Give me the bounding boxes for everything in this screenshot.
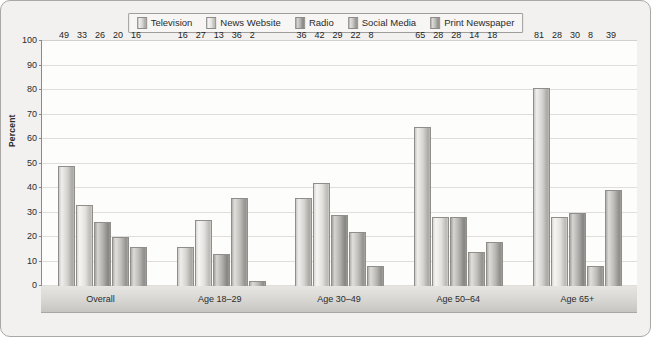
bar-slot: 39 <box>605 41 622 286</box>
bar-value-label: 36 <box>232 30 242 40</box>
y-axis-tick-mark <box>39 114 42 115</box>
legend-item-television[interactable]: Television <box>137 17 193 29</box>
bar-value-label: 29 <box>332 30 342 40</box>
y-axis-tick-label: 10 <box>27 256 37 266</box>
bar[interactable]: 28 <box>432 217 449 286</box>
bar-slot: 14 <box>468 41 485 286</box>
y-axis-tick-mark <box>39 212 42 213</box>
bar[interactable]: 27 <box>195 220 212 286</box>
bar-value-label: 2 <box>250 30 255 40</box>
y-axis-tick-label: 20 <box>27 231 37 241</box>
y-axis-tick-label: 80 <box>27 84 37 94</box>
legend-label: Social Media <box>362 18 416 28</box>
legend-swatch-icon <box>137 17 147 29</box>
y-axis-tick-label: 0 <box>32 280 37 290</box>
bar[interactable]: 28 <box>551 217 568 286</box>
bar-slot: 8 <box>367 41 384 286</box>
x-axis-category-label: Overall <box>41 286 160 312</box>
bar[interactable]: 18 <box>486 242 503 286</box>
x-axis-category-label: Age 65+ <box>518 286 637 312</box>
plot-wrapper: 1009080706050403020100 49332620161627133… <box>41 41 637 313</box>
y-axis-tick-label: 100 <box>22 35 37 45</box>
legend-label: Television <box>151 18 193 28</box>
y-axis-tick-label: 50 <box>27 158 37 168</box>
bar-value-label: 16 <box>178 30 188 40</box>
y-axis-tick-mark <box>39 40 42 41</box>
bar-slot: 16 <box>177 41 194 286</box>
bar-slot: 2 <box>249 41 266 286</box>
bar-value-label: 65 <box>415 30 425 40</box>
bar-slot: 26 <box>94 41 111 286</box>
bar[interactable]: 13 <box>213 254 230 286</box>
bar-slot: 28 <box>551 41 568 286</box>
bar[interactable]: 49 <box>58 166 75 286</box>
bar-value-label: 39 <box>606 30 616 40</box>
legend-item-social-media[interactable]: Social Media <box>348 17 416 29</box>
bar-value-label: 16 <box>131 30 141 40</box>
bar[interactable]: 42 <box>313 183 330 286</box>
legend-swatch-icon <box>206 17 216 29</box>
bar-slot: 65 <box>414 41 431 286</box>
bar-slot: 29 <box>331 41 348 286</box>
bar-slot: 30 <box>569 41 586 286</box>
bar-group: 812830839 <box>518 41 637 286</box>
legend-item-news-website[interactable]: News Website <box>206 17 281 29</box>
bar-value-label: 18 <box>487 30 497 40</box>
bar[interactable]: 36 <box>295 198 312 286</box>
bar[interactable]: 8 <box>367 266 384 286</box>
x-axis-category-label: Age 18–29 <box>160 286 279 312</box>
bar-slot: 13 <box>213 41 230 286</box>
category-axis: OverallAge 18–29Age 30–49Age 50–64Age 65… <box>41 286 637 313</box>
bar[interactable]: 28 <box>450 217 467 286</box>
bar-value-label: 27 <box>196 30 206 40</box>
bar[interactable]: 29 <box>331 215 348 286</box>
bar[interactable]: 65 <box>414 127 431 286</box>
bar[interactable]: 14 <box>468 252 485 286</box>
y-axis-tick-label: 60 <box>27 133 37 143</box>
bar-slot: 28 <box>432 41 449 286</box>
bar-value-label: 28 <box>451 30 461 40</box>
bar-value-label: 8 <box>588 30 593 40</box>
bar-value-label: 20 <box>113 30 123 40</box>
bar[interactable]: 8 <box>587 266 604 286</box>
bar-value-label: 42 <box>314 30 324 40</box>
y-axis-tick-mark <box>39 138 42 139</box>
bar[interactable]: 22 <box>349 232 366 286</box>
bar-value-label: 49 <box>59 30 69 40</box>
bar-value-label: 28 <box>552 30 562 40</box>
bar-value-label: 36 <box>296 30 306 40</box>
bar-slot: 81 <box>533 41 550 286</box>
bar-slot: 20 <box>112 41 129 286</box>
bar[interactable]: 36 <box>231 198 248 286</box>
bar-value-label: 33 <box>77 30 87 40</box>
bar[interactable]: 26 <box>94 222 111 286</box>
bar[interactable]: 33 <box>76 205 93 286</box>
bar-slot: 36 <box>231 41 248 286</box>
bar-group: 364229228 <box>281 41 400 286</box>
bar-slot: 8 <box>587 41 604 286</box>
bar[interactable]: 16 <box>177 247 194 286</box>
bar[interactable]: 30 <box>569 213 586 287</box>
plot-area: 1009080706050403020100 49332620161627133… <box>41 41 637 287</box>
legend-item-radio[interactable]: Radio <box>295 17 334 29</box>
bar-value-label: 14 <box>469 30 479 40</box>
legend-label: Print Newspaper <box>444 18 514 28</box>
bar-slot: 18 <box>486 41 503 286</box>
y-axis-tick-mark <box>39 187 42 188</box>
bar-value-label: 8 <box>368 30 373 40</box>
bar[interactable]: 81 <box>533 88 550 286</box>
y-axis-tick-label: 70 <box>27 109 37 119</box>
y-axis-tick-label: 30 <box>27 207 37 217</box>
bar-slot: 42 <box>313 41 330 286</box>
bar-group: 4933262016 <box>43 41 162 286</box>
legend-item-print-newspaper[interactable]: Print Newspaper <box>430 17 514 29</box>
legend-label: News Website <box>220 18 281 28</box>
y-axis-tick-mark <box>39 89 42 90</box>
x-axis-category-label: Age 50–64 <box>399 286 518 312</box>
y-axis-tick-label: 40 <box>27 182 37 192</box>
bar-slot: 27 <box>195 41 212 286</box>
bar[interactable]: 16 <box>130 247 147 286</box>
bar[interactable]: 20 <box>112 237 129 286</box>
bar-slot: 36 <box>295 41 312 286</box>
bar[interactable]: 39 <box>605 190 622 286</box>
